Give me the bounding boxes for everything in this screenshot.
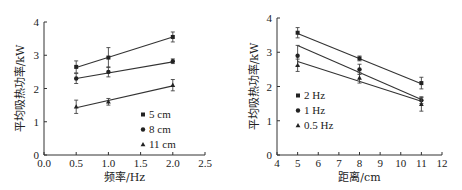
fit-line: [76, 62, 173, 79]
x-tick-label: 4: [274, 157, 280, 169]
y-tick-label: 2: [267, 81, 273, 93]
x-axis-label: 频率/Hz: [104, 170, 145, 184]
data-point-triangle-marker: [170, 83, 175, 87]
legend: 2 Hz1 Hz0.5 Hz: [296, 89, 334, 131]
x-tick-label: 11: [416, 157, 427, 169]
x-tick-label: 12: [437, 157, 448, 169]
legend-circle-marker: [141, 127, 145, 131]
legend-label: 1 Hz: [304, 104, 325, 116]
series-5cm: [74, 32, 175, 73]
x-tick-label: 6: [316, 157, 322, 169]
x-tick-label: 0.5: [69, 157, 83, 169]
data-point-square-marker: [171, 35, 175, 39]
series-8cm: [74, 59, 175, 84]
axes: [277, 18, 442, 155]
legend-label: 8 cm: [149, 123, 171, 135]
x-tick-label: 2.5: [198, 157, 212, 169]
x-tick-label: 8: [357, 157, 363, 169]
legend-label: 2 Hz: [304, 89, 325, 101]
y-axis-label: 平均吸热功率/kW: [247, 42, 261, 130]
y-tick-label: 4: [34, 16, 40, 28]
y-tick-label: 3: [34, 49, 40, 61]
data-point-square-marker: [419, 81, 423, 85]
x-tick-label: 7: [336, 157, 342, 169]
frequency-chart: 0.00.51.01.52.02.501234频率/Hz平均吸热功率/kW5 c…: [13, 16, 212, 184]
data-point-square-marker: [74, 65, 78, 69]
data-point-circle-marker: [74, 76, 78, 80]
legend-triangle-marker: [296, 123, 301, 127]
data-point-circle-marker: [295, 53, 299, 57]
x-tick-label: 2.0: [166, 157, 180, 169]
data-point-circle-marker: [171, 59, 175, 63]
fit-line: [76, 37, 173, 68]
data-point-circle-marker: [357, 67, 361, 71]
data-point-square-marker: [296, 31, 300, 35]
charts-canvas: 0.00.51.01.52.02.501234频率/Hz平均吸热功率/kW5 c…: [0, 0, 462, 190]
data-point-square-marker: [106, 56, 110, 60]
data-point-triangle-marker: [74, 104, 79, 108]
x-tick-label: 0.0: [37, 157, 51, 169]
y-axis-label: 平均吸热功率/kW: [13, 44, 27, 132]
y-tick-label: 0: [267, 149, 273, 161]
y-tick-label: 4: [267, 12, 273, 24]
axes: [44, 22, 205, 155]
y-tick-label: 1: [267, 115, 273, 127]
legend-triangle-marker: [141, 142, 146, 146]
x-tick-label: 5: [295, 157, 301, 169]
legend-square-marker: [141, 113, 145, 117]
x-tick-label: 1.5: [134, 157, 148, 169]
data-point-triangle-marker: [295, 63, 300, 67]
legend-circle-marker: [296, 108, 300, 112]
x-tick-label: 10: [395, 157, 407, 169]
y-tick-label: 2: [34, 83, 40, 95]
legend-square-marker: [296, 94, 300, 98]
data-point-triangle-marker: [357, 75, 362, 79]
data-point-circle-marker: [106, 70, 110, 74]
data-point-square-marker: [358, 56, 362, 60]
y-tick-label: 3: [267, 46, 273, 58]
x-axis-label: 距离/cm: [338, 170, 381, 184]
legend-label: 11 cm: [149, 138, 176, 150]
y-tick-label: 0: [34, 149, 40, 161]
y-tick-label: 1: [34, 116, 40, 128]
distance-chart: 45678910111201234距离/cm平均吸热功率/kW2 Hz1 Hz0…: [247, 12, 448, 184]
legend-label: 5 cm: [149, 108, 171, 120]
legend: 5 cm8 cm11 cm: [141, 108, 177, 150]
fit-line: [76, 86, 173, 108]
x-tick-label: 1.0: [102, 157, 116, 169]
legend-label: 0.5 Hz: [304, 119, 333, 131]
x-tick-label: 9: [377, 157, 383, 169]
